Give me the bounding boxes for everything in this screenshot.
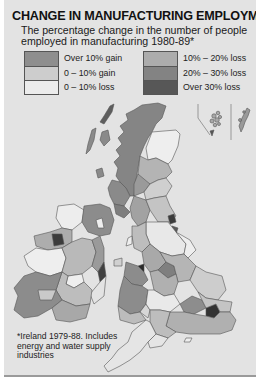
uk-ireland-map <box>0 0 256 383</box>
southwest <box>104 320 156 372</box>
east-anglia <box>190 266 226 300</box>
southeast <box>166 312 236 334</box>
scotland-outer-hebrides <box>100 104 114 124</box>
northern-ireland-west <box>56 204 84 230</box>
shetland-islands <box>239 108 251 132</box>
scotland-northeast <box>146 130 180 164</box>
ireland-west <box>24 248 66 276</box>
orkney-islands <box>210 111 222 127</box>
